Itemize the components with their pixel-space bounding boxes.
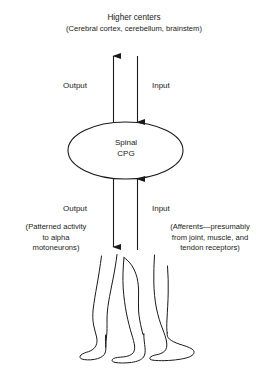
lower-output-label: Output bbox=[63, 204, 87, 213]
upper-output-label: Output bbox=[63, 81, 87, 90]
lower-output-detail-line-2: to alpha bbox=[2, 233, 110, 244]
upper-input-label: Input bbox=[152, 81, 170, 90]
lower-output-detail: (Patterned activity to alpha motoneurons… bbox=[2, 222, 110, 254]
lower-input-label: Input bbox=[152, 204, 170, 213]
lower-input-detail-line-1: (Afferents—presumably bbox=[152, 222, 268, 233]
legs-icon bbox=[80, 255, 194, 364]
lower-output-detail-line-3: motoneurons) bbox=[2, 243, 110, 254]
cpg-locomotion-diagram bbox=[0, 0, 268, 376]
spinal-cpg-label: Spinal CPG bbox=[68, 137, 184, 159]
lower-input-detail-line-2: from joint, muscle, and bbox=[152, 233, 268, 244]
lower-input-detail-line-3: tendon receptors) bbox=[152, 243, 268, 254]
higher-centers-title: Higher centers bbox=[0, 12, 268, 24]
spinal-cpg-line2: CPG bbox=[68, 148, 184, 159]
lower-input-detail: (Afferents—presumably from joint, muscle… bbox=[152, 222, 268, 254]
higher-centers-label: Higher centers (Cerebral cortex, cerebel… bbox=[0, 12, 268, 34]
higher-centers-detail: (Cerebral cortex, cerebellum, brainstem) bbox=[0, 24, 268, 35]
lower-output-detail-line-1: (Patterned activity bbox=[2, 222, 110, 233]
spinal-cpg-line1: Spinal bbox=[68, 137, 184, 148]
